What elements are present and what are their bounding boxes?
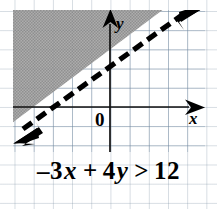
caption-relation: > — [134, 157, 149, 185]
caption-lead-sign: – — [37, 157, 50, 185]
caption-var-x: x — [63, 157, 78, 185]
caption-coef-y: 4 — [103, 157, 116, 185]
origin-label: 0 — [95, 109, 105, 131]
caption-var-y: y — [116, 157, 130, 185]
arrow-down-left-icon-fill — [13, 128, 39, 144]
shaded-solution-region-main — [13, 10, 205, 151]
inequality-caption: – 3 x + 4 y > 12 — [0, 154, 217, 188]
y-axis-label: y — [116, 14, 124, 34]
plot-area: y x 0 — [13, 10, 205, 152]
arrow-up-right-icon-fill — [179, 10, 205, 22]
linear-inequality-figure: y x 0 – 3 x + 4 y > 12 — [0, 0, 217, 209]
x-axis-label: x — [189, 109, 198, 129]
caption-coef-x: 3 — [50, 157, 63, 185]
caption-operator-plus: + — [83, 157, 98, 185]
caption-constant: 12 — [154, 157, 180, 185]
plot-graphics — [13, 10, 205, 152]
